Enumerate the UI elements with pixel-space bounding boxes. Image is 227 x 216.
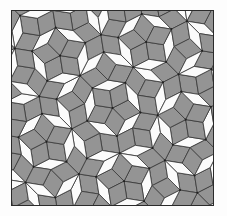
vertex-dot	[132, 66, 134, 68]
vertex-dot	[33, 166, 35, 168]
vertex-dot	[205, 139, 207, 141]
vertex-dot	[31, 50, 33, 52]
vertex-dot	[45, 141, 47, 143]
vertex-dot	[178, 73, 180, 75]
vertex-dot	[100, 34, 102, 36]
vertex-dot	[14, 47, 16, 49]
vertex-dot	[123, 180, 125, 182]
vertex-dot	[59, 55, 61, 57]
tiling-border	[11, 10, 214, 206]
vertex-dot	[55, 27, 57, 29]
vertex-dot	[38, 95, 40, 97]
vertex-dot	[170, 28, 172, 30]
vertex-dot	[119, 152, 121, 154]
vertex-dot	[186, 20, 188, 22]
vertex-dot	[139, 111, 141, 113]
vertex-dot	[25, 181, 27, 183]
vertex-dot	[19, 15, 21, 17]
vertex-dot	[201, 50, 203, 52]
vertex-dot	[56, 98, 58, 100]
vertex-dot	[157, 114, 159, 116]
vertex-dot	[179, 189, 181, 191]
vertex-dot	[143, 200, 145, 202]
vertex-dot	[71, 128, 73, 130]
vertex-dot	[91, 87, 93, 89]
vertex-dot	[65, 161, 67, 163]
vertex-dot	[164, 159, 166, 161]
vertex-dot	[172, 144, 174, 146]
vertex-dot	[162, 81, 164, 83]
vertex-dot	[46, 80, 48, 82]
vertex-dot	[111, 107, 113, 109]
vertex-dot	[17, 136, 19, 138]
vertex-dot	[165, 61, 167, 63]
vertex-dot	[152, 147, 154, 149]
vertex-dot	[78, 173, 80, 175]
vertex-dot	[54, 197, 56, 199]
vertex-dot	[185, 119, 187, 121]
vertex-dot	[116, 135, 118, 137]
vertex-dot	[141, 13, 143, 15]
vertex-dot	[194, 174, 196, 176]
vertex-dot	[196, 192, 198, 194]
vertex-dot	[86, 157, 88, 159]
vertex-dot	[117, 37, 119, 39]
vertex-dot	[148, 167, 150, 169]
vertex-dot	[103, 51, 105, 53]
penrose-tiling-canvas	[12, 11, 213, 205]
vertex-dot	[84, 42, 86, 44]
vertex-dot	[180, 91, 182, 93]
vertex-dot	[145, 41, 147, 43]
vertex-dot	[95, 176, 97, 178]
vertex-dot	[86, 120, 88, 122]
vertex-dot	[79, 75, 81, 77]
vertex-dot	[124, 82, 126, 84]
vertex-dot	[210, 68, 212, 70]
penrose-tiling-figure	[0, 0, 227, 216]
vertex-dot	[41, 113, 43, 115]
vertex-dot	[210, 106, 212, 108]
